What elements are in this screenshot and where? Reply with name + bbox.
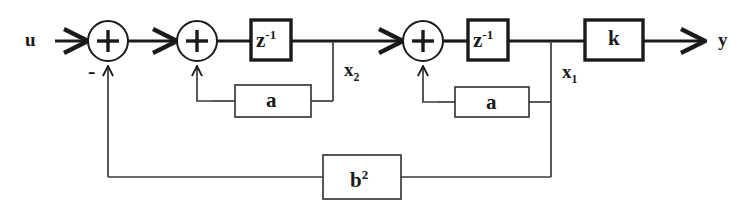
state-label-x2-subscript: 2	[354, 71, 360, 84]
delay-block-1-exponent: -1	[265, 27, 276, 42]
gain-block-b-squared-label: b2	[350, 168, 368, 191]
input-label-u: u	[25, 30, 36, 49]
state-label-x1-base: x	[562, 61, 572, 82]
gain-block-a-2-label: a	[486, 92, 497, 113]
diagram-canvas	[0, 0, 756, 217]
state-label-x1: x1	[562, 62, 577, 86]
state-label-x1-subscript: 1	[572, 73, 578, 86]
delay-block-2-label: z-1	[473, 28, 493, 51]
block-diagram: u y - z-1 z-1 k a a b2 x2 x1	[0, 0, 756, 217]
delay-block-1-label: z-1	[256, 28, 276, 51]
wire-a2-feedback-corner	[423, 66, 438, 102]
wire-a1-feedback-corner	[197, 66, 212, 101]
delay-block-1-base: z	[256, 28, 265, 52]
output-label-y: y	[718, 30, 728, 49]
delay-block-2-base: z	[473, 28, 482, 52]
delay-block-2-exponent: -1	[482, 27, 493, 42]
gain-block-b-base: b	[350, 168, 362, 192]
state-label-x2-base: x	[344, 59, 354, 80]
gain-block-k-label: k	[608, 28, 620, 49]
gain-block-b-exponent: 2	[362, 167, 369, 182]
gain-block-a-1-label: a	[266, 90, 277, 111]
state-label-x2: x2	[344, 60, 359, 84]
negative-sign-summer-1: -	[88, 60, 95, 82]
